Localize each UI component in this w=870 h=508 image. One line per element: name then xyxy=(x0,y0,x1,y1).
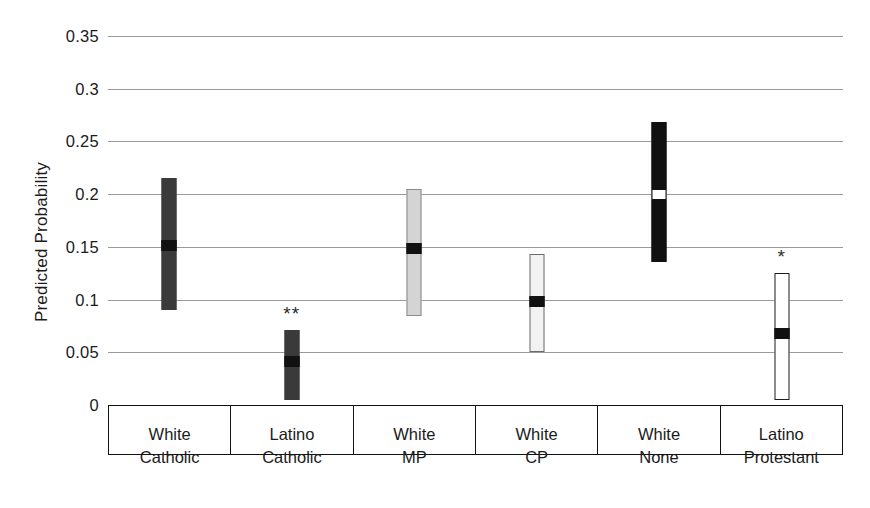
x-axis-category-label: LatinoProtestant xyxy=(744,423,819,469)
bar-group xyxy=(108,36,231,405)
point-estimate-marker xyxy=(529,296,544,307)
x-axis-category-label: WhiteMP xyxy=(393,423,435,469)
x-axis-category-label: LatinoCatholic xyxy=(262,423,322,469)
y-axis-tick-label: 0.35 xyxy=(66,27,99,46)
significance-marker: * xyxy=(778,247,786,266)
plot-area: 00.050.10.150.20.250.30.35*** xyxy=(108,36,843,405)
bar-group xyxy=(476,36,599,405)
x-axis-category-label-line: White xyxy=(516,423,558,446)
category-cell: WhiteCP xyxy=(476,406,598,454)
y-axis-tick-label: 0.05 xyxy=(66,343,99,362)
category-axis-box: WhiteCatholicLatinoCatholicWhiteMPWhiteC… xyxy=(108,405,843,455)
x-axis-category-label: WhiteNone xyxy=(638,423,680,469)
category-cell: LatinoProtestant xyxy=(721,406,842,454)
x-axis-category-label-line: Protestant xyxy=(744,446,819,469)
point-estimate-marker xyxy=(407,243,422,254)
y-axis-tick-label: 0.1 xyxy=(75,290,99,309)
y-axis-tick-label: 0.25 xyxy=(66,132,99,151)
y-axis-tick-label: 0 xyxy=(90,396,99,415)
category-cell: LatinoCatholic xyxy=(231,406,353,454)
category-cell: WhiteNone xyxy=(598,406,720,454)
bar-group xyxy=(598,36,721,405)
x-axis-category-label-line: Latino xyxy=(262,423,322,446)
x-axis-category-label-line: White xyxy=(393,423,435,446)
point-estimate-marker xyxy=(284,356,299,367)
y-axis-title: Predicted Probability xyxy=(32,112,52,372)
x-axis-category-label-line: Catholic xyxy=(140,446,200,469)
chart-figure: Predicted Probability 00.050.10.150.20.2… xyxy=(0,0,870,508)
y-axis-tick-label: 0.15 xyxy=(66,237,99,256)
x-axis-category-label-line: None xyxy=(638,446,680,469)
x-axis-category-label-line: Catholic xyxy=(262,446,322,469)
bar-group: * xyxy=(721,36,844,405)
point-estimate-marker xyxy=(652,189,667,200)
y-axis-tick-label: 0.3 xyxy=(75,79,99,98)
y-axis-tick-label: 0.2 xyxy=(75,185,99,204)
category-cell: WhiteMP xyxy=(354,406,476,454)
category-cell: WhiteCatholic xyxy=(109,406,231,454)
bar-group xyxy=(353,36,476,405)
significance-marker: ** xyxy=(283,304,300,323)
x-axis-category-label-line: CP xyxy=(516,446,558,469)
bar-group: ** xyxy=(231,36,354,405)
point-estimate-marker xyxy=(162,240,177,251)
x-axis-category-label-line: MP xyxy=(393,446,435,469)
x-axis-category-label-line: Latino xyxy=(744,423,819,446)
point-estimate-marker xyxy=(774,328,789,339)
x-axis-category-label-line: White xyxy=(140,423,200,446)
x-axis-category-label: WhiteCatholic xyxy=(140,423,200,469)
x-axis-category-label: WhiteCP xyxy=(516,423,558,469)
x-axis-category-label-line: White xyxy=(638,423,680,446)
